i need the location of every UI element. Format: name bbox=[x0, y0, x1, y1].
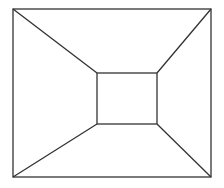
inner-rectangle bbox=[97, 73, 157, 124]
connector-top-right bbox=[157, 9, 211, 73]
outer-rectangle bbox=[13, 9, 211, 177]
connector-top-left bbox=[13, 9, 97, 73]
connector-bottom-right bbox=[157, 124, 211, 177]
connector-bottom-left bbox=[13, 124, 97, 177]
diagram-canvas bbox=[0, 0, 224, 188]
